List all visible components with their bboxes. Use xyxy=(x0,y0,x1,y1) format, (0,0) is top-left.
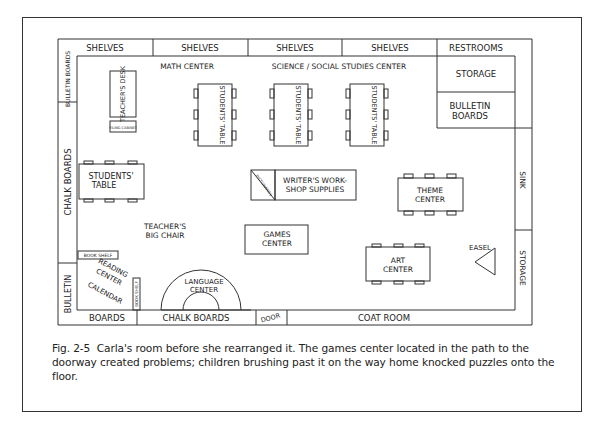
book-shelf-label: BOOK SHELF xyxy=(84,253,113,258)
teachers-big-chair-label-line2: BIG CHAIR xyxy=(146,231,185,240)
science-center-label: SCIENCE / SOCIAL STUDIES CENTER xyxy=(272,62,406,71)
theme-center-label: THEME xyxy=(416,186,443,195)
bulletin-boards-label-line2: BOARDS xyxy=(452,111,488,121)
easel-label: EASEL xyxy=(469,244,491,252)
caption-figure-number: Fig. 2-5 xyxy=(52,342,90,354)
bulletin-boards-label: BULLETIN xyxy=(450,101,491,111)
left-bulletin-label: BULLETIN xyxy=(64,275,73,314)
chalk-boards-label: CHALK BOARDS xyxy=(63,148,73,215)
left-bulletin-boards-label: BULLETIN BOARDS xyxy=(64,51,71,107)
writers-workshop-label: WRITER'S WORK- xyxy=(283,176,347,185)
teachers-desk-label: TEACHER'S DESK xyxy=(119,65,127,123)
students-table-label: STUDENTS' TABLE xyxy=(294,86,302,145)
students-table-1 xyxy=(194,84,236,146)
wall-label-shelves: SHELVES xyxy=(181,43,219,53)
coat-room-label: COAT ROOM xyxy=(358,313,410,323)
wall-label-restrooms: RESTROOMS xyxy=(449,43,503,53)
students-table-2 xyxy=(270,84,312,146)
students-table-left-label-line2: TABLE xyxy=(91,181,117,190)
art-center-label: ART xyxy=(391,256,406,265)
storage-label: STORAGE xyxy=(456,69,496,79)
art-center-label-line2: CENTER xyxy=(383,265,413,274)
games-center-label-line2: CENTER xyxy=(262,239,292,248)
dictionaries-label: DICTIONARIES xyxy=(255,174,273,197)
students-table-label: STUDENTS' TABLE xyxy=(218,86,226,145)
theme-center-label-line2: CENTER xyxy=(415,195,445,204)
wall-label-shelves: SHELVES xyxy=(371,43,409,53)
math-center-label: MATH CENTER xyxy=(160,62,214,71)
games-center-label: GAMES xyxy=(264,230,291,239)
language-center-label-line2: CENTER xyxy=(190,286,218,294)
students-table-label: STUDENTS' TABLE xyxy=(370,86,378,145)
filing-cabinet-label: FILING CABINET xyxy=(109,126,138,130)
book-shelf-vertical-label: BOOK SHELF xyxy=(134,281,139,307)
students-table-left-label: STUDENTS' xyxy=(88,172,133,181)
caption-text: Carla's room before she rearranged it. T… xyxy=(52,342,555,382)
boards-label: BOARDS xyxy=(89,313,125,323)
teachers-big-chair-label: TEACHER'S xyxy=(143,222,186,231)
bottom-chalk-boards-label: CHALK BOARDS xyxy=(162,313,229,323)
students-table-3 xyxy=(346,84,388,146)
right-storage-label: STORAGE xyxy=(518,250,527,286)
wall-label-shelves: SHELVES xyxy=(86,43,124,53)
language-center-label: LANGUAGE xyxy=(184,278,223,286)
wall-label-shelves: SHELVES xyxy=(276,43,314,53)
door-label: DOOR xyxy=(260,312,282,325)
easel xyxy=(475,248,495,275)
sink-label: SINK xyxy=(518,171,527,190)
writers-workshop-label-line2: SHOP SUPPLIES xyxy=(286,185,345,194)
figure-caption: Fig. 2-5 Carla's room before she rearran… xyxy=(52,341,572,384)
